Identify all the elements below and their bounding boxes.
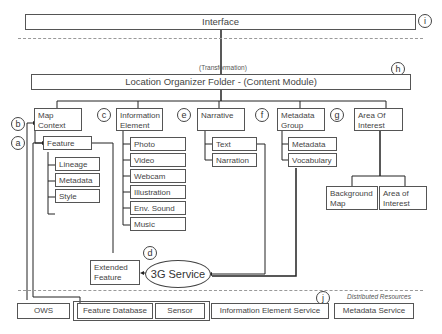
feature-database-label: Feature Database [83, 306, 147, 316]
lineage-label: Lineage [59, 160, 87, 169]
sensor-box: Sensor [155, 303, 205, 319]
content-module-box: Location Organizer Folder - (Content Mod… [31, 74, 411, 90]
divider-bottom [18, 290, 423, 291]
aoi-child: Area of Interest [379, 186, 427, 210]
narrative-child: Text [212, 137, 257, 151]
env-sound-label: Env. Sound [134, 204, 175, 213]
feature-child: Style [55, 189, 100, 203]
photo-label: Photo [134, 140, 155, 149]
music-label: Music [134, 220, 155, 229]
ows-label: OWS [34, 306, 53, 316]
3g-service-ellipse: 3G Service [145, 260, 211, 288]
marker-f: f [255, 108, 269, 122]
area-of-interest-box: Area Of Interest [354, 108, 403, 131]
feature-box: Feature [43, 136, 92, 150]
interface-box: Interface [25, 14, 416, 30]
marker-a: a [11, 136, 25, 150]
distributed-label: Distributed Resources [347, 293, 411, 300]
ows-box: OWS [17, 303, 70, 319]
extended-feature-box: Extended Feature [90, 260, 140, 285]
ie-child: Env. Sound [130, 201, 186, 215]
metadata-service-label: Metadata Service [343, 306, 405, 316]
marker-i: i [418, 14, 432, 28]
marker-b: b [11, 117, 25, 131]
area-of-interest-label: Area Of Interest [358, 111, 386, 130]
interface-label: Interface [202, 17, 239, 27]
ie-child: Photo [130, 137, 186, 151]
text-label: Text [216, 140, 231, 149]
feature-label: Feature [47, 139, 75, 148]
ie-child: Webcam [130, 169, 186, 183]
ie-service-box: Information Element Service [211, 303, 329, 319]
content-module-label: Location Organizer Folder - (Content Mod… [125, 77, 317, 87]
metadata-service-box: Metadata Service [334, 303, 414, 319]
transformation-label: (Transformation) [199, 64, 247, 71]
extended-feature-label: Extended Feature [94, 263, 128, 282]
marker-e: e [177, 108, 191, 122]
style-label: Style [59, 192, 77, 201]
background-map-label: Background Map [330, 189, 373, 208]
mg-child: Vocabulary [288, 153, 337, 167]
map-context-label: Map Context [38, 111, 66, 130]
divider-top [18, 38, 423, 39]
narration-label: Narration [216, 156, 249, 165]
feature-child: Metadata [55, 173, 100, 187]
aoi-child-label: Area of Interest [383, 189, 410, 208]
marker-d: d [143, 246, 157, 260]
webcam-label: Webcam [134, 172, 165, 181]
information-element-label: Information Element [120, 111, 160, 130]
narrative-box: Narrative [197, 108, 245, 131]
ie-child: Music [130, 217, 186, 231]
marker-c: c [97, 108, 111, 122]
ie-service-label: Information Element Service [220, 306, 321, 316]
mg-child: Metadata [288, 137, 337, 151]
narrative-child: Narration [212, 153, 257, 167]
metadata-group-label: Metadata Group [281, 111, 314, 130]
video-label: Video [134, 156, 154, 165]
vocabulary-label: Vocabulary [292, 156, 332, 165]
narrative-label: Narrative [201, 111, 233, 120]
3g-service-label: 3G Service [151, 268, 205, 280]
feature-child: Lineage [55, 157, 100, 171]
information-element-box: Information Element [116, 108, 163, 131]
metadata-group-box: Metadata Group [277, 108, 325, 131]
sensor-label: Sensor [167, 306, 192, 316]
ie-child: Illustration [130, 185, 186, 199]
ie-child: Video [130, 153, 186, 167]
map-context-box: Map Context [34, 108, 82, 131]
illustration-label: Illustration [134, 188, 170, 197]
aoi-child: Background Map [326, 186, 378, 210]
mg-metadata-label: Metadata [292, 140, 325, 149]
metadata-label: Metadata [59, 176, 92, 185]
feature-database-box: Feature Database [77, 303, 153, 319]
marker-g: g [330, 108, 344, 122]
